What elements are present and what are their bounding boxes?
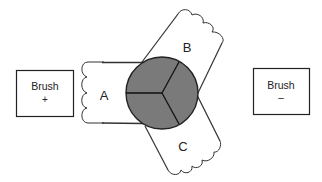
brush-positive-label: Brush <box>31 80 59 92</box>
coil-b-label: B <box>183 40 192 55</box>
brush-negative: Brush – <box>254 69 310 115</box>
brush-positive: Brush + <box>17 71 74 117</box>
brush-positive-sign: + <box>42 94 48 105</box>
coil-a-label: A <box>100 88 109 103</box>
brush-negative-sign: – <box>278 92 284 103</box>
commutator <box>126 57 198 129</box>
coil-c-label: C <box>178 139 187 154</box>
armature-diagram: Brush + Brush – A B C <box>0 0 322 182</box>
brush-negative-label: Brush <box>267 79 295 91</box>
